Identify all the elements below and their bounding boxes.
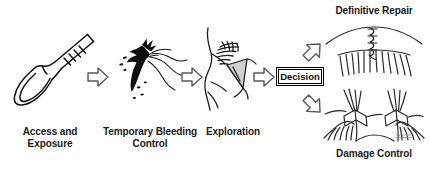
decision-label: Decision <box>280 72 320 82</box>
arrow-access-to-bleeding <box>86 65 110 89</box>
outcome-label-definitive-repair: Definitive Repair <box>320 5 428 17</box>
figure-canvas: Access and Exposure <box>0 0 429 169</box>
arrow-exploration-to-decision <box>252 65 276 89</box>
outcome-label-damage-control: Damage Control <box>320 148 428 160</box>
scalpel-icon <box>8 22 96 108</box>
step-label-exploration: Exploration <box>196 126 270 138</box>
step-label-bleeding: Temporary Bleeding Control <box>92 126 208 150</box>
decision-box[interactable]: Decision <box>276 67 324 86</box>
decision-box-inner: Decision <box>278 69 322 84</box>
step-label-access: Access and Exposure <box>4 126 96 150</box>
sutured-vessel-icon <box>322 24 426 80</box>
clamped-vessel-icon <box>322 88 426 144</box>
